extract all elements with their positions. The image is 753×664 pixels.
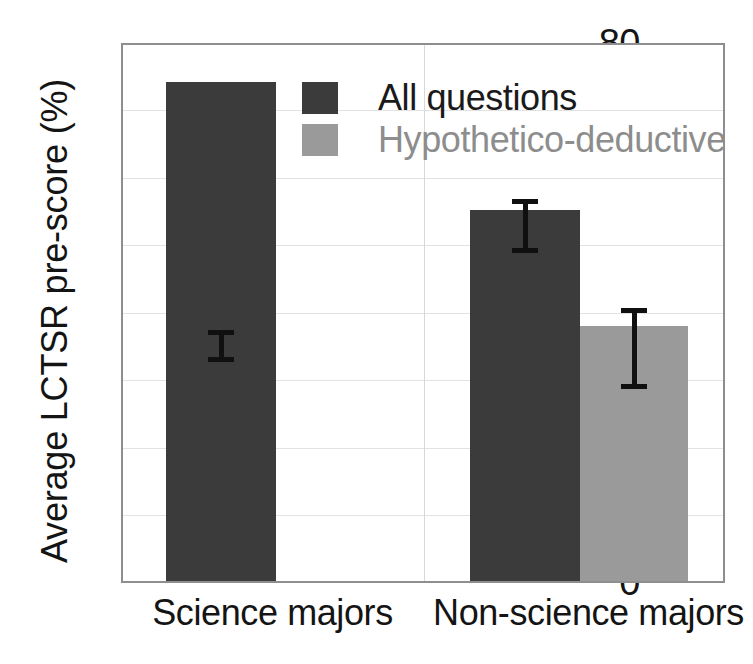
- error-bar-cap-top: [512, 199, 538, 204]
- x-category-label-non-science-majors: Non-science majors: [424, 592, 753, 634]
- error-bar-stem: [523, 199, 528, 253]
- x-category-label-science-majors: Science majors: [121, 592, 424, 634]
- plot-area: All questions Hypothetico-deductive: [121, 43, 725, 583]
- error-bar-cap-top: [208, 330, 234, 335]
- legend-label-all-questions: All questions: [378, 77, 577, 119]
- bar-nonscience-all-questions[interactable]: [470, 210, 580, 581]
- y-axis-title: Average LCTSR pre-score (%): [34, 41, 76, 601]
- error-bar-cap-bottom: [512, 248, 538, 253]
- legend-entry-all-questions[interactable]: All questions: [302, 77, 577, 119]
- legend-label-hypothetico-deductive: Hypothetico-deductive: [378, 119, 723, 161]
- error-bar-nonscience-all-questions: [512, 199, 538, 253]
- legend-swatch-icon-all-questions: [302, 82, 338, 114]
- legend-swatch-icon-hypothetico-deductive: [302, 124, 338, 156]
- chart-figure: Average LCTSR pre-score (%) 80 70 60 50 …: [0, 0, 753, 664]
- error-bar-stem: [632, 308, 637, 389]
- legend-entry-hypothetico-deductive[interactable]: Hypothetico-deductive: [302, 119, 723, 161]
- error-bar-cap-bottom: [621, 384, 647, 389]
- error-bar-cap-bottom: [208, 357, 234, 362]
- error-bar-cap-top: [621, 308, 647, 313]
- error-bar-science-all-questions: [208, 330, 234, 362]
- error-bar-nonscience-hypothetico-deductive: [621, 308, 647, 389]
